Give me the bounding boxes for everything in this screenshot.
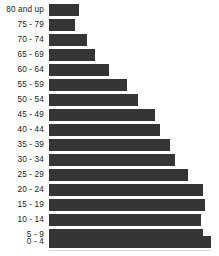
bar-row: 60 - 64 [0,64,219,79]
bar-row: 0 - 4 [0,236,219,251]
bar-fill [49,49,95,61]
category-label: 65 - 69 [0,49,44,61]
bar-row: 30 - 34 [0,154,219,169]
bar-row: 40 - 44 [0,124,219,139]
bar-row: 45 - 49 [0,109,219,124]
chart-plot-area: 80 and up 75 - 79 70 - 74 65 - 69 60 - 6 [0,0,219,252]
category-label: 35 - 39 [0,139,44,151]
bar-row: 25 - 29 [0,169,219,184]
bar-fill [49,169,188,181]
bar-row: 20 - 24 [0,184,219,199]
category-label: 50 - 54 [0,94,44,106]
bar-fill [49,154,175,166]
bar-fill [49,34,87,46]
bar-fill [49,214,201,226]
category-label: 55 - 59 [0,79,44,91]
category-label: 10 - 14 [0,214,44,226]
bar-row: 70 - 74 [0,34,219,49]
bar-row: 35 - 39 [0,139,219,154]
category-label: 40 - 44 [0,124,44,136]
bar-fill [49,139,170,151]
category-label: 25 - 29 [0,169,44,181]
bar-row: 80 and up [0,4,219,19]
bar-fill [49,94,138,106]
category-label: 15 - 19 [0,199,44,211]
bar-fill [49,199,205,211]
bar-fill [49,64,109,76]
baseline-rule [49,250,211,251]
category-label: 60 - 64 [0,64,44,76]
bar-fill [49,4,79,16]
bar-fill [49,79,127,91]
bar-fill [49,19,75,31]
bar-row: 15 - 19 [0,199,219,214]
population-pyramid-chart: 80 and up 75 - 79 70 - 74 65 - 69 60 - 6 [0,0,219,256]
bar-fill [49,109,155,121]
bar-row: 55 - 59 [0,79,219,94]
bar-fill [49,236,211,248]
category-label: 0 - 4 [0,236,44,248]
category-label: 45 - 49 [0,109,44,121]
category-label: 75 - 79 [0,19,44,31]
category-label: 80 and up [0,4,44,16]
bar-fill [49,184,203,196]
bar-row: 10 - 14 [0,214,219,229]
bar-row: 75 - 79 [0,19,219,34]
category-label: 70 - 74 [0,34,44,46]
category-label: 20 - 24 [0,184,44,196]
category-label: 30 - 34 [0,154,44,166]
bar-fill [49,124,160,136]
bar-row: 50 - 54 [0,94,219,109]
bar-row: 65 - 69 [0,49,219,64]
